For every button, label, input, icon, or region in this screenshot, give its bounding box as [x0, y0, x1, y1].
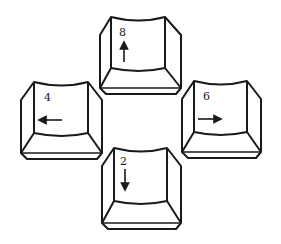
key-6-right: 6 [182, 81, 261, 158]
key-label-2: 2 [120, 155, 127, 168]
key-label-4: 4 [44, 91, 51, 104]
key-label-6: 6 [203, 90, 210, 103]
key-label-8: 8 [119, 26, 126, 39]
key-8-up: 8 [100, 17, 181, 94]
arrow-keys-diagram: 8 4 6 2 [0, 0, 281, 244]
key-2-down: 2 [102, 148, 181, 229]
key-4-left: 4 [21, 82, 102, 159]
